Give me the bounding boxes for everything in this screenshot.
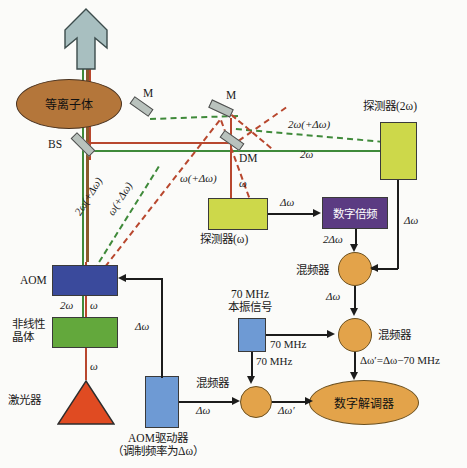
wire-mixermid-to-demod [354, 352, 356, 374]
wire-det2w-down [397, 180, 399, 269]
beam-dm-to-detectorw [230, 150, 232, 198]
label-detw-dw: Δω [280, 196, 294, 208]
wire-driver-up [161, 278, 163, 378]
label-w-dm: ω [239, 177, 247, 189]
mixer-bottom-label: 混频器 [196, 377, 229, 390]
nonlinear-crystal-label: 非线性 晶体 [12, 318, 45, 344]
wire-driver-to-mixerbottom [179, 401, 235, 403]
label-det2w-dw: Δω [404, 214, 418, 226]
label-2w-crystal: 2ω [60, 299, 73, 311]
arrow-to-demodulator [350, 372, 358, 380]
wire-lo-to-mixermid [266, 334, 328, 336]
label-dwprime: Δω′ [278, 404, 295, 416]
label-lo-70mhz-right: 70 MHz [270, 338, 306, 350]
label-driver-dw: Δω [196, 404, 210, 416]
label-2w-delta-top: 2ω(+Δω) [288, 118, 330, 130]
aom-driver-block[interactable] [145, 376, 179, 428]
arrow-lo-to-mixer-mid [327, 330, 335, 338]
mixer-top-label: 混频器 [296, 264, 329, 277]
label-w-laser: ω [90, 360, 98, 372]
nonlinear-crystal-block[interactable] [52, 317, 118, 348]
laser-triangle[interactable] [57, 380, 115, 425]
beam-horiz-green [86, 150, 232, 152]
output-arrow-icon [64, 8, 108, 70]
digital-doubler-block[interactable]: 数字倍频 [322, 197, 388, 229]
plasma-label: 等离子体 [45, 95, 93, 113]
aom-driver-line1: AOM驱动器 [112, 432, 204, 445]
local-oscillator-line1: 70 MHz [228, 288, 272, 301]
beam-horiz-red [86, 142, 232, 144]
label-2w-right: 2ω [300, 148, 313, 160]
wire-mixertop-to-mixermid [354, 286, 356, 309]
diagram-canvas: 等离子体 BS M M DM AOM 非线性 晶体 激光器 2ω ω ω 探测器… [0, 0, 467, 468]
detector-w-block[interactable] [208, 198, 268, 230]
label-mixertop-dw: Δω [326, 290, 340, 302]
label-2dw: 2Δω [323, 233, 343, 245]
mirror-2-label: M [226, 89, 236, 102]
digital-doubler-label: 数字倍频 [333, 205, 377, 221]
detector-w-label: 探测器(ω) [200, 233, 248, 246]
dichroic-mirror-label: DM [239, 152, 258, 165]
arrow-to-mixer-top-right [370, 264, 378, 272]
digital-demodulator-ellipse[interactable]: 数字解调器 [309, 380, 419, 425]
wire-detw-to-doubler [268, 213, 314, 215]
wire-lo-down [251, 352, 253, 378]
arrow-mixerbottom-to-demod [305, 397, 313, 405]
arrow-driver-to-mixer-bottom [232, 397, 240, 405]
detector-2w-label: 探测器(2ω) [363, 100, 417, 113]
arrow-to-aom [118, 274, 126, 282]
label-driver-to-aom-dw: Δω [135, 320, 149, 332]
arrow-lo-to-mixer-bottom [247, 376, 255, 384]
local-oscillator-label: 70 MHz 本振信号 [228, 288, 272, 314]
detector-2w-block[interactable] [380, 122, 417, 180]
label-dwprime-eq: Δω′=Δω−70 MHz [360, 354, 440, 366]
mirror-1-label: M [143, 87, 153, 100]
arrow-to-mixer-mid [350, 308, 358, 316]
mixer-bottom[interactable] [240, 386, 272, 418]
aom-driver-line2: （调制频率为Δω） [112, 445, 204, 458]
local-oscillator-line2: 本振信号 [228, 301, 272, 314]
label-w-crystal: ω [90, 299, 98, 311]
laser-label: 激光器 [8, 394, 41, 407]
mixer-top[interactable] [338, 252, 372, 286]
local-oscillator-block[interactable] [238, 318, 266, 352]
nonlinear-crystal-label-line1: 非线性 [12, 318, 45, 331]
wire-driver-to-aom [122, 278, 162, 280]
aom-driver-label: AOM驱动器 （调制频率为Δω） [112, 432, 204, 458]
mixer-mid[interactable] [338, 318, 372, 352]
aom-label: AOM [20, 274, 47, 287]
label-lo-70mhz-down: 70 MHz [256, 355, 292, 367]
plasma-ellipse: 等离子体 [16, 79, 122, 129]
label-w-delta-right: ω(+Δω) [180, 172, 217, 184]
mixer-mid-label: 混频器 [378, 329, 411, 342]
beam-splitter-label: BS [48, 138, 62, 151]
arrow-to-doubler [313, 209, 321, 217]
arrow-to-mixer-top [350, 244, 358, 252]
digital-demodulator-label: 数字解调器 [334, 394, 394, 412]
nonlinear-crystal-label-line2: 晶体 [12, 331, 45, 344]
aom-block[interactable] [52, 265, 118, 296]
